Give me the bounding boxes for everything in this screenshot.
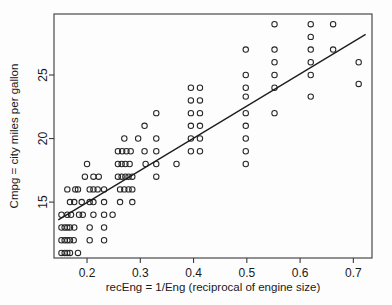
- data-point: [101, 212, 106, 217]
- data-point: [308, 47, 313, 52]
- x-axis-ticks: 0.20.30.40.50.60.7: [79, 258, 362, 280]
- y-tick-label: 20: [36, 132, 50, 146]
- data-point: [272, 60, 277, 65]
- data-point: [188, 149, 193, 154]
- data-point: [197, 110, 202, 115]
- x-tick-label: 0.7: [345, 266, 362, 280]
- data-point: [243, 85, 248, 90]
- data-point: [243, 149, 248, 154]
- data-point: [96, 174, 101, 179]
- data-point: [130, 187, 135, 192]
- data-point: [71, 238, 76, 243]
- plot-canvas: 0.20.30.40.50.60.7 152025 recEng = 1/Eng…: [0, 0, 392, 305]
- data-point: [197, 98, 202, 103]
- data-point: [188, 123, 193, 128]
- data-point: [130, 199, 135, 204]
- data-point: [135, 136, 140, 141]
- data-point: [197, 85, 202, 90]
- data-point: [154, 174, 159, 179]
- data-point: [197, 136, 202, 141]
- data-point: [188, 98, 193, 103]
- data-point: [101, 238, 106, 243]
- data-point: [243, 123, 248, 128]
- data-point: [122, 136, 127, 141]
- data-point: [308, 94, 313, 99]
- data-point: [117, 199, 122, 204]
- x-tick-label: 0.2: [79, 266, 96, 280]
- regression-line: [58, 34, 365, 220]
- data-point: [110, 212, 115, 217]
- data-point: [154, 149, 159, 154]
- data-point: [330, 47, 335, 52]
- plot-frame: [54, 14, 372, 258]
- plot-box: [54, 14, 372, 258]
- data-point: [272, 110, 277, 115]
- data-point: [356, 60, 361, 65]
- data-point: [91, 174, 96, 179]
- data-point: [308, 34, 313, 39]
- x-tick-label: 0.6: [292, 266, 309, 280]
- data-point: [84, 161, 89, 166]
- data-point: [308, 60, 313, 65]
- data-point: [142, 123, 147, 128]
- data-point: [197, 123, 202, 128]
- data-point: [243, 110, 248, 115]
- x-tick-label: 0.5: [238, 266, 255, 280]
- data-point: [80, 212, 85, 217]
- data-point: [243, 161, 248, 166]
- data-point: [101, 199, 106, 204]
- y-tick-label: 25: [36, 68, 50, 82]
- x-axis-label: recEng = 1/Eng (reciprocal of engine siz…: [106, 281, 321, 293]
- data-point: [101, 225, 106, 230]
- y-axis-ticks: 152025: [36, 68, 54, 209]
- data-point: [174, 161, 179, 166]
- data-point: [75, 250, 80, 255]
- data-point: [197, 149, 202, 154]
- scatter-plot-figure: 0.20.30.40.50.60.7 152025 recEng = 1/Eng…: [0, 0, 392, 305]
- y-axis-label: Cmpg = city miles per gallon: [8, 64, 20, 209]
- data-point: [82, 174, 87, 179]
- x-tick-label: 0.3: [132, 266, 149, 280]
- data-point: [356, 81, 361, 86]
- data-point: [188, 85, 193, 90]
- data-point: [154, 110, 159, 115]
- data-point: [91, 212, 96, 217]
- data-point: [87, 238, 92, 243]
- data-point: [87, 225, 92, 230]
- x-tick-label: 0.4: [185, 266, 202, 280]
- data-point: [243, 72, 248, 77]
- data-point: [272, 21, 277, 26]
- data-point: [65, 187, 70, 192]
- y-tick-label: 15: [36, 195, 50, 209]
- data-point: [142, 149, 147, 154]
- data-points: [59, 21, 362, 255]
- fitted-line: [58, 34, 365, 220]
- data-point: [272, 47, 277, 52]
- data-point: [243, 94, 248, 99]
- data-point: [330, 21, 335, 26]
- data-point: [188, 110, 193, 115]
- data-point: [154, 136, 159, 141]
- data-point: [243, 47, 248, 52]
- data-point: [308, 72, 313, 77]
- data-point: [243, 136, 248, 141]
- data-point: [272, 72, 277, 77]
- data-point: [308, 21, 313, 26]
